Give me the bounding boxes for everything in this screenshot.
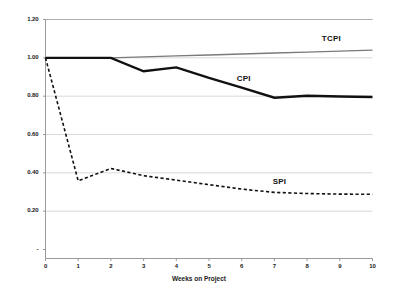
x-axis-tick-label: 9 (332, 263, 348, 269)
x-axis-tick-label: 5 (201, 263, 217, 269)
series-label-tcpi: TCPI (322, 34, 341, 43)
x-axis-tick-label: 6 (234, 263, 250, 269)
x-axis-tick-label: 8 (299, 263, 315, 269)
series-label-spi: SPI (273, 177, 287, 186)
chart-plot-area (0, 0, 398, 288)
y-axis-tick-label: 1.20 (13, 16, 39, 22)
series-label-cpi: CPI (237, 74, 251, 83)
y-axis-tick-label: 1.00 (13, 54, 39, 60)
chart-container: -0.200.400.600.801.001.20012345678910Wee… (0, 0, 398, 288)
x-axis-tick-label: 4 (168, 263, 184, 269)
x-axis-tick-label: 0 (38, 263, 54, 269)
x-axis-tick-label: 2 (103, 263, 119, 269)
y-axis-tick-label: 0.60 (13, 131, 39, 137)
y-axis-tick-label: - (13, 246, 39, 252)
series-line-cpi (46, 58, 373, 98)
x-axis-tick-label: 3 (136, 263, 152, 269)
x-axis-tick-label: 7 (266, 263, 282, 269)
x-axis-tick-label: 1 (70, 263, 86, 269)
y-axis-tick-label: 0.20 (13, 207, 39, 213)
y-axis-tick-label: 0.40 (13, 169, 39, 175)
y-axis-tick-label: 0.80 (13, 92, 39, 98)
x-axis-tick-label: 10 (365, 263, 381, 269)
x-axis-title: Weeks on Project (0, 275, 398, 282)
